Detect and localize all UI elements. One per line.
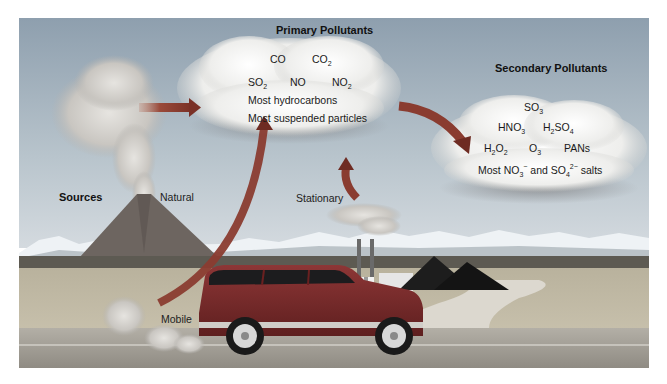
source-stationary-label: Stationary bbox=[296, 192, 343, 204]
primary-co: CO bbox=[270, 53, 286, 65]
pollution-sources-scene: Primary Pollutants CO CO2 SO2 NO NO2 Mos… bbox=[19, 18, 649, 368]
secondary-salts: Most NO3− and SO42− salts bbox=[478, 163, 602, 178]
sources-heading: Sources bbox=[59, 191, 102, 203]
secondary-h2o2: H2O2 bbox=[484, 142, 508, 156]
source-mobile-label: Mobile bbox=[161, 313, 192, 325]
primary-so2: SO2 bbox=[248, 76, 267, 90]
primary-hydrocarbons: Most hydrocarbons bbox=[248, 94, 337, 106]
secondary-h2so4: H2SO4 bbox=[543, 121, 574, 135]
secondary-pans: PANs bbox=[564, 142, 590, 154]
primary-particles: Most suspended particles bbox=[248, 112, 367, 124]
primary-co2: CO2 bbox=[312, 53, 332, 67]
primary-pollutants-title: Primary Pollutants bbox=[276, 24, 373, 36]
secondary-so3: SO3 bbox=[524, 101, 543, 115]
primary-no: NO bbox=[290, 76, 306, 88]
source-natural-label: Natural bbox=[160, 191, 194, 203]
primary-no2: NO2 bbox=[332, 76, 352, 90]
secondary-pollutants-title: Secondary Pollutants bbox=[495, 62, 607, 74]
secondary-o3: O3 bbox=[529, 142, 541, 156]
secondary-hno3: HNO3 bbox=[498, 121, 525, 135]
